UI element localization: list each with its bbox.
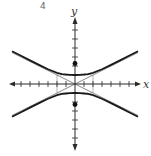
y-axis-label: y <box>70 5 78 18</box>
focus-lower <box>73 102 78 107</box>
hyperbola-graph: 4 x <box>0 0 151 156</box>
problem-number: 4 <box>40 1 46 11</box>
y-axis-down-arrow-icon <box>73 144 78 151</box>
x-axis-label: x <box>143 78 150 91</box>
y-axis-up-arrow-icon <box>73 17 78 24</box>
focus-upper <box>73 61 78 66</box>
x-axis-left-arrow-icon <box>9 82 15 87</box>
x-axis-right-arrow-icon <box>135 82 141 87</box>
